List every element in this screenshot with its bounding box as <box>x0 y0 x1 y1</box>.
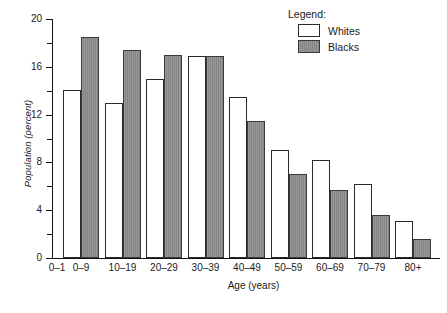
x-tick-label: 80+ <box>383 262 443 273</box>
bar-blacks <box>81 37 99 258</box>
y-axis-title: Population (percent) <box>22 64 33 224</box>
bar-whites <box>229 97 247 258</box>
y-tick-minor <box>47 234 52 235</box>
bar-group <box>188 19 224 258</box>
y-tick-major <box>46 67 52 68</box>
y-tick-label: 8 <box>20 157 42 167</box>
bar-chart-figure: Population (percent) 048121620 0–10–910–… <box>0 0 447 313</box>
bar-blacks <box>206 56 224 258</box>
bar-whites <box>271 150 289 258</box>
white-outline-swatch-icon <box>298 24 320 37</box>
bar-blacks <box>123 50 141 258</box>
bar-group <box>63 19 99 258</box>
bar-whites <box>312 160 330 258</box>
figure-caption <box>2 305 445 313</box>
y-tick-minor <box>47 186 52 187</box>
y-tick-major <box>46 19 52 20</box>
bar-whites <box>188 56 206 258</box>
y-tick-major <box>46 162 52 163</box>
bar-blacks <box>164 55 182 258</box>
bar-group <box>395 19 431 258</box>
x-axis-line <box>52 258 440 259</box>
bar-whites <box>395 221 413 258</box>
legend-entry-whites: Whites <box>298 24 360 37</box>
bar-blacks <box>413 239 431 258</box>
bar-blacks <box>372 215 390 258</box>
bar-whites <box>63 90 81 258</box>
bar-group <box>146 19 182 258</box>
y-tick-label: 4 <box>20 205 42 215</box>
y-tick-major <box>46 115 52 116</box>
legend-label-whites: Whites <box>328 25 360 37</box>
gray-filled-swatch-icon <box>298 40 320 53</box>
y-tick-minor <box>47 91 52 92</box>
bar-blacks <box>289 174 307 258</box>
y-tick-label: 12 <box>20 110 42 120</box>
x-axis-title: Age (years) <box>0 280 447 291</box>
bar-blacks <box>247 121 265 258</box>
y-tick-major <box>46 210 52 211</box>
bar-group <box>105 19 141 258</box>
y-tick-minor <box>47 139 52 140</box>
legend-label-blacks: Blacks <box>328 41 359 53</box>
x-axis-title-text: Age (years) <box>228 280 280 291</box>
bar-whites <box>146 79 164 258</box>
legend-entry-blacks: Blacks <box>298 40 360 53</box>
legend: Legend: Whites Blacks <box>288 8 360 56</box>
y-tick-major <box>46 258 52 259</box>
bar-whites <box>105 103 123 258</box>
y-tick-minor <box>47 43 52 44</box>
legend-title: Legend: <box>288 8 360 20</box>
y-tick-label: 20 <box>20 14 42 24</box>
y-tick-label: 16 <box>20 62 42 72</box>
plot-area <box>53 19 440 258</box>
bar-group <box>229 19 265 258</box>
bar-blacks <box>330 190 348 258</box>
bar-whites <box>354 184 372 258</box>
